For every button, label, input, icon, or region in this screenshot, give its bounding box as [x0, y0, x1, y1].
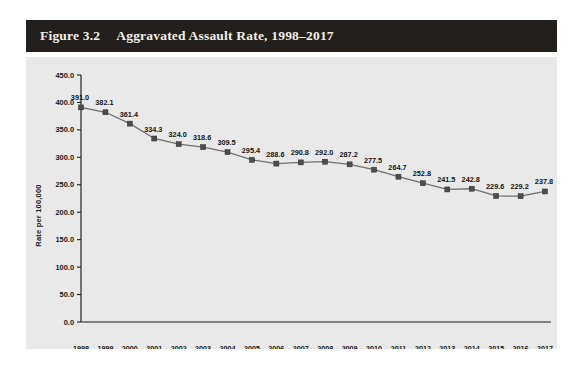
x-tick-label: 2013: [439, 344, 455, 349]
data-point-label: 277.5: [364, 156, 382, 165]
data-point-marker: [298, 160, 303, 165]
x-tick-label: 2016: [513, 344, 529, 349]
y-tick-label: 100.0: [56, 263, 75, 272]
figure-title: Aggravated Assault Rate, 1998–2017: [116, 28, 334, 44]
y-tick-label: 50.0: [60, 290, 74, 299]
x-tick-label: 2010: [366, 344, 382, 349]
data-point-label: 242.8: [462, 175, 480, 184]
data-point-marker: [396, 174, 401, 179]
y-tick-label: 250.0: [56, 180, 75, 189]
data-point-marker: [225, 150, 230, 155]
data-point-marker: [152, 136, 157, 141]
x-tick-label: 2015: [488, 344, 504, 349]
x-tick-label: 2000: [122, 344, 138, 349]
figure-container: Figure 3.2 Aggravated Assault Rate, 1998…: [0, 0, 583, 366]
data-point-label: 334.3: [144, 125, 162, 134]
data-point-label: 318.6: [193, 133, 211, 142]
data-point-marker: [79, 105, 84, 110]
data-point-label: 295.4: [242, 146, 261, 155]
x-tick-label: 2007: [293, 344, 309, 349]
data-point-label: 237.8: [535, 177, 553, 186]
data-point-label: 287.2: [339, 150, 357, 159]
data-point-label: 241.5: [437, 175, 455, 184]
data-point-marker: [445, 187, 450, 192]
figure-number: Figure 3.2: [40, 28, 100, 44]
data-point-marker: [176, 142, 181, 147]
data-point-marker: [494, 193, 499, 198]
x-tick-label: 2002: [171, 344, 187, 349]
data-point-marker: [323, 159, 328, 164]
data-point-marker: [249, 157, 254, 162]
data-point-marker: [372, 167, 377, 172]
y-tick-label: 350.0: [56, 125, 75, 134]
y-tick-label: 150.0: [56, 235, 75, 244]
data-point-label: 229.6: [486, 182, 504, 191]
y-tick-label: 0.0: [64, 318, 74, 327]
x-tick-label: 1998: [73, 344, 89, 349]
data-point-marker: [469, 186, 474, 191]
data-point-label: 252.8: [413, 169, 431, 178]
x-tick-label: 2008: [317, 344, 333, 349]
x-axis-group: 1998199920002001200220032004200520062007…: [73, 322, 553, 349]
x-tick-label: 2006: [268, 344, 284, 349]
x-tick-label: 2014: [464, 344, 480, 349]
data-point-marker: [201, 145, 206, 150]
data-point-label: 290.8: [291, 148, 309, 157]
x-tick-group: 1998199920002001200220032004200520062007…: [73, 344, 553, 349]
x-tick-label: 2004: [220, 344, 236, 349]
data-point-marker: [347, 162, 352, 167]
data-label-group: 391.0382.1361.4334.3324.0318.6309.5295.4…: [71, 93, 553, 191]
x-tick-label: 2009: [342, 344, 358, 349]
x-tick-label: 2005: [244, 344, 260, 349]
x-tick-label: 2001: [146, 344, 162, 349]
data-point-label: 229.2: [510, 182, 528, 191]
data-point-marker: [543, 189, 548, 194]
data-point-label: 288.6: [266, 150, 284, 159]
x-tick-label: 2011: [391, 344, 407, 349]
y-tick-label: 200.0: [56, 208, 75, 217]
data-point-marker: [103, 110, 108, 115]
y-tick-label: 300.0: [56, 153, 75, 162]
data-point-label: 382.1: [95, 98, 113, 107]
data-point-label: 391.0: [71, 93, 89, 102]
x-tick-label: 1999: [97, 344, 113, 349]
data-point-label: 361.4: [120, 110, 139, 119]
figure-title-bar: Figure 3.2 Aggravated Assault Rate, 1998…: [26, 20, 557, 52]
data-point-marker: [518, 194, 523, 199]
data-point-marker: [420, 181, 425, 186]
line-chart: 0.050.0100.0150.0200.0250.0300.0350.0400…: [26, 57, 557, 349]
data-point-label: 309.5: [217, 138, 235, 147]
x-tick-label: 2012: [415, 344, 431, 349]
data-point-label: 264.7: [388, 163, 406, 172]
data-point-marker: [127, 121, 132, 126]
data-point-label: 292.0: [315, 148, 333, 157]
x-tick-label: 2003: [195, 344, 211, 349]
y-tick-label: 450.0: [56, 71, 75, 80]
x-tick-label: 2017: [537, 344, 553, 349]
data-point-label: 324.0: [169, 130, 187, 139]
data-series-aggravated-assault: [79, 105, 548, 199]
y-tick-group: 0.050.0100.0150.0200.0250.0300.0350.0400…: [56, 71, 82, 327]
y-axis-group: 0.050.0100.0150.0200.0250.0300.0350.0400…: [56, 71, 82, 327]
data-point-marker: [274, 161, 279, 166]
